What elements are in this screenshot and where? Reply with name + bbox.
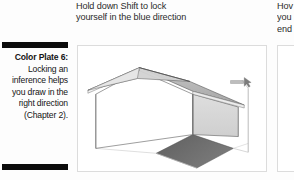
figure-page: Color Plate 6: Locking an inference help… [0,0,294,180]
next-figure-panel [277,45,294,172]
house-model-illustration [78,46,266,171]
figure-panel [77,45,267,172]
cursor-arrow [244,77,251,87]
caption-body: Locking an inference helps you draw in t… [0,64,68,122]
figure-heading: Hold down Shift to lock yourself in the … [76,1,206,24]
caption-rule-bottom [2,164,68,170]
ground-edge-far [233,143,248,148]
next-figure-heading-line-1: Hov [277,1,294,12]
next-figure-heading: Hov you end [277,1,294,35]
caption-rule-top [2,42,68,48]
inference-lock-base [233,148,248,152]
next-figure-heading-line-3: end [277,24,294,35]
caption-text: Color Plate 6: Locking an inference help… [0,52,68,122]
ground-shadow [156,135,233,168]
figure-heading-line-2: yourself in the blue direction [76,12,206,23]
inference-tooltip [230,80,244,84]
figure-caption-block: Color Plate 6: Locking an inference help… [0,38,70,174]
figure-heading-line-1: Hold down Shift to lock [76,1,206,12]
next-figure-heading-line-2: you [277,12,294,23]
sketchup-house-scene [78,46,266,171]
caption-lead: Color Plate 6: [0,52,68,64]
